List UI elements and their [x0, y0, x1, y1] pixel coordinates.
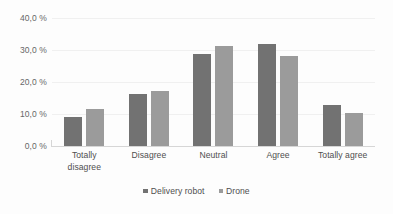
y-axis-tick-label: 10,0 %	[0, 109, 47, 119]
bars-layer	[52, 18, 375, 146]
x-axis: Totally disagree Disagree Neutral Agree …	[52, 150, 375, 173]
x-axis-tick-label-line: disagree	[52, 162, 117, 174]
legend-swatch-icon	[143, 189, 148, 194]
y-axis-tick-label: 30,0 %	[0, 45, 47, 55]
y-axis-tick-label: 40,0 %	[0, 13, 47, 23]
bar-delivery-robot[interactable]	[258, 44, 276, 146]
x-axis-tick-label: Disagree	[117, 150, 182, 173]
bar-drone[interactable]	[86, 109, 104, 146]
x-axis-tick-label: Agree	[246, 150, 311, 173]
x-axis-tick-label-line: Agree	[246, 150, 311, 162]
x-axis-line	[52, 146, 375, 147]
x-axis-tick-label-line: Disagree	[117, 150, 182, 162]
x-axis-tick-label-line: Totally	[52, 150, 117, 162]
category-group	[117, 18, 182, 146]
legend-swatch-icon	[219, 189, 224, 194]
x-axis-tick-label: Neutral	[181, 150, 246, 173]
x-axis-tick-label: Totally disagree	[52, 150, 117, 173]
y-axis: 40,0 % 30,0 % 20,0 % 10,0 % 0,0 %	[0, 0, 47, 214]
x-axis-tick-label: Totally agree	[310, 150, 375, 173]
grouped-bar-chart: 40,0 % 30,0 % 20,0 % 10,0 % 0,0 %	[0, 0, 393, 214]
bar-drone[interactable]	[280, 56, 298, 146]
category-group	[52, 18, 117, 146]
chart-legend: Delivery robot Drone	[0, 186, 393, 196]
legend-item-delivery-robot[interactable]: Delivery robot	[143, 186, 204, 196]
y-axis-tick-label: 20,0 %	[0, 77, 47, 87]
legend-item-label: Delivery robot	[151, 186, 205, 196]
legend-item-drone[interactable]: Drone	[219, 186, 250, 196]
x-axis-tick	[51, 140, 52, 147]
bar-delivery-robot[interactable]	[193, 54, 211, 146]
legend-item-label: Drone	[226, 186, 250, 196]
bar-delivery-robot[interactable]	[129, 94, 147, 146]
bar-drone[interactable]	[215, 46, 233, 146]
bar-drone[interactable]	[345, 113, 363, 146]
bar-delivery-robot[interactable]	[323, 105, 341, 146]
y-axis-tick-label: 0,0 %	[0, 141, 47, 151]
category-group	[246, 18, 311, 146]
x-axis-tick-label-line: Totally agree	[310, 150, 375, 162]
bar-delivery-robot[interactable]	[64, 117, 82, 146]
x-axis-tick-label-line: Neutral	[181, 150, 246, 162]
category-group	[181, 18, 246, 146]
category-group	[310, 18, 375, 146]
bar-drone[interactable]	[151, 91, 169, 146]
